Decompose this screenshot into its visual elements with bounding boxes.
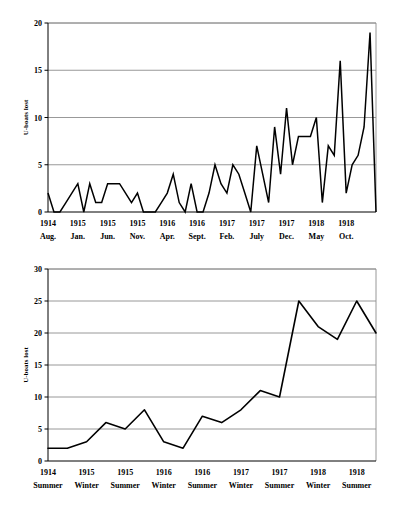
- x-tick-sub-2: Jun.: [100, 232, 115, 241]
- x-tick-year-4: 1916: [194, 468, 210, 477]
- x-tick-year-5: 1916: [189, 219, 205, 228]
- x-tick-sub-5: Sept.: [189, 232, 206, 241]
- x-tick-sub-5: Winter: [229, 481, 254, 490]
- y-tick-label-20: 20: [34, 329, 42, 338]
- x-tick-year-0: 1914: [40, 219, 56, 228]
- monthly-chart-svg: 051015201914Aug.1915Jan.1915Jun.1915Nov.…: [0, 0, 401, 256]
- x-tick-year-1: 1915: [79, 468, 95, 477]
- x-tick-year-4: 1916: [159, 219, 175, 228]
- chart-seasonal-u-boat-losses: 0510152025301914Summer1915Winter1915Summ…: [0, 256, 401, 511]
- x-tick-year-0: 1914: [40, 468, 56, 477]
- x-tick-sub-1: Jan.: [71, 232, 85, 241]
- y-axis-title: U-boats lost: [22, 347, 30, 383]
- y-tick-label-0: 0: [38, 208, 42, 217]
- chart-monthly-u-boat-losses: 051015201914Aug.1915Jan.1915Jun.1915Nov.…: [0, 0, 401, 256]
- x-tick-year-7: 1917: [249, 219, 265, 228]
- x-tick-year-10: 1918: [338, 219, 354, 228]
- y-tick-label-20: 20: [34, 19, 42, 28]
- y-tick-label-30: 30: [34, 265, 42, 274]
- x-tick-sub-3: Nov.: [130, 232, 145, 241]
- x-tick-sub-4: Summer: [188, 481, 218, 490]
- y-tick-label-10: 10: [34, 393, 42, 402]
- y-tick-label-10: 10: [34, 114, 42, 123]
- x-tick-year-7: 1918: [310, 468, 326, 477]
- x-tick-year-6: 1917: [272, 468, 288, 477]
- x-tick-year-2: 1915: [100, 219, 116, 228]
- x-tick-sub-7: July: [249, 232, 264, 241]
- x-tick-year-2: 1915: [117, 468, 133, 477]
- x-tick-sub-1: Winter: [74, 481, 99, 490]
- y-tick-label-15: 15: [34, 361, 42, 370]
- x-tick-sub-0: Summer: [33, 481, 63, 490]
- x-tick-sub-8: Summer: [342, 481, 372, 490]
- x-tick-sub-0: Aug.: [40, 232, 56, 241]
- y-tick-label-5: 5: [38, 161, 42, 170]
- x-tick-sub-10: Oct.: [339, 232, 353, 241]
- y-tick-label-0: 0: [38, 457, 42, 466]
- x-tick-year-8: 1917: [279, 219, 295, 228]
- x-tick-sub-6: Summer: [265, 481, 295, 490]
- x-tick-sub-8: Dec.: [279, 232, 294, 241]
- figure-page: 051015201914Aug.1915Jan.1915Jun.1915Nov.…: [0, 0, 401, 511]
- x-tick-sub-4: Apr.: [160, 232, 175, 241]
- x-tick-sub-3: Winter: [152, 481, 177, 490]
- x-tick-year-3: 1915: [129, 219, 145, 228]
- x-tick-year-8: 1918: [349, 468, 365, 477]
- x-tick-year-6: 1917: [219, 219, 235, 228]
- y-tick-label-15: 15: [34, 66, 42, 75]
- x-tick-year-5: 1917: [233, 468, 249, 477]
- seasonal-chart-svg: 0510152025301914Summer1915Winter1915Summ…: [0, 256, 401, 511]
- y-tick-label-5: 5: [38, 425, 42, 434]
- x-tick-year-3: 1916: [156, 468, 172, 477]
- x-tick-sub-2: Summer: [111, 481, 141, 490]
- x-tick-year-9: 1918: [308, 219, 324, 228]
- y-axis-title: U-boats lost: [22, 99, 30, 135]
- x-tick-year-1: 1915: [70, 219, 86, 228]
- data-series-line: [48, 301, 376, 448]
- x-tick-sub-9: May: [309, 232, 325, 241]
- y-tick-label-25: 25: [34, 297, 42, 306]
- x-tick-sub-7: Winter: [306, 481, 331, 490]
- data-series-line: [48, 32, 376, 212]
- x-tick-sub-6: Feb.: [219, 232, 234, 241]
